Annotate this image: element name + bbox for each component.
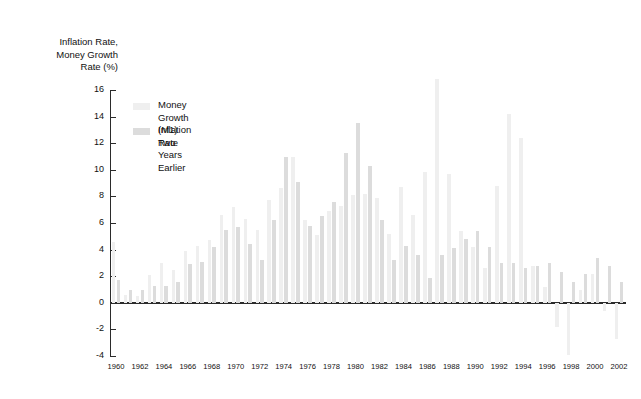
y-tick xyxy=(110,170,116,171)
bar-money-growth-1960 xyxy=(112,242,116,303)
y-tick-label: 10 xyxy=(78,164,104,174)
inflation-money-growth-chart: Inflation Rate, Money Growth Rate (%) 16… xyxy=(0,0,641,399)
y-tick xyxy=(110,143,116,144)
bar-money-growth-1980 xyxy=(351,195,355,303)
bar-inflation-1978 xyxy=(332,202,336,303)
bar-inflation-1976 xyxy=(308,226,312,303)
bar-inflation-1992 xyxy=(500,263,504,303)
y-tick-label: 2 xyxy=(78,270,104,280)
bar-inflation-1964 xyxy=(164,286,168,303)
bar-money-growth-1989 xyxy=(459,231,463,303)
y-tick-label: -2 xyxy=(78,323,104,333)
bar-money-growth-1965 xyxy=(172,270,176,303)
bar-inflation-1986 xyxy=(428,278,432,303)
y-tick xyxy=(110,356,116,357)
bar-money-growth-1973 xyxy=(267,200,271,302)
bar-inflation-2000 xyxy=(596,258,600,303)
y-tick-label: 14 xyxy=(78,111,104,121)
bar-inflation-1991 xyxy=(488,247,492,303)
bar-money-growth-1962 xyxy=(136,296,140,303)
y-tick-label: 12 xyxy=(78,137,104,147)
bar-inflation-1984 xyxy=(404,246,408,303)
bar-inflation-1960 xyxy=(117,280,121,303)
bar-inflation-1961 xyxy=(129,290,133,303)
bar-inflation-1969 xyxy=(224,230,228,303)
bar-inflation-1965 xyxy=(176,282,180,303)
bar-money-growth-1991 xyxy=(483,268,487,303)
bar-inflation-1971 xyxy=(248,244,252,303)
bar-money-growth-1963 xyxy=(148,275,152,303)
bar-inflation-1963 xyxy=(153,286,157,303)
y-tick-label: 6 xyxy=(78,217,104,227)
bar-money-growth-1983 xyxy=(387,234,391,303)
bar-money-growth-1976 xyxy=(303,220,307,302)
y-tick xyxy=(110,90,116,91)
bar-inflation-1973 xyxy=(272,220,276,302)
bar-inflation-1977 xyxy=(320,216,324,302)
bar-inflation-1979 xyxy=(344,153,348,303)
legend-swatch-inflation-icon xyxy=(133,128,150,135)
bar-money-growth-1988 xyxy=(447,174,451,303)
bar-money-growth-1993 xyxy=(507,114,511,303)
bar-money-growth-1997 xyxy=(555,303,559,327)
bar-inflation-1995 xyxy=(536,266,540,303)
bar-money-growth-1961 xyxy=(124,295,128,303)
y-axis-title: Inflation Rate, Money Growth Rate (%) xyxy=(18,36,118,74)
bar-money-growth-1967 xyxy=(196,246,200,303)
bar-inflation-1980 xyxy=(356,123,360,303)
bar-money-growth-1994 xyxy=(519,138,523,303)
bar-inflation-1974 xyxy=(284,157,288,303)
bar-inflation-1997 xyxy=(560,272,564,303)
bar-inflation-1994 xyxy=(524,268,528,303)
y-tick-label: 16 xyxy=(78,84,104,94)
bar-inflation-1990 xyxy=(476,231,480,303)
bar-money-growth-1974 xyxy=(279,188,283,302)
bar-inflation-1987 xyxy=(440,255,444,303)
bar-inflation-2002 xyxy=(620,282,624,303)
bar-money-growth-2000 xyxy=(591,274,595,303)
bar-inflation-1981 xyxy=(368,166,372,303)
bar-money-growth-1966 xyxy=(184,251,188,303)
y-tick-label: -4 xyxy=(78,350,104,360)
bar-inflation-1983 xyxy=(392,260,396,303)
y-tick xyxy=(110,303,116,304)
bar-money-growth-1978 xyxy=(327,211,331,303)
bar-money-growth-2001 xyxy=(603,303,607,311)
bar-inflation-1968 xyxy=(212,247,216,303)
bar-money-growth-1985 xyxy=(411,215,415,303)
bar-inflation-1996 xyxy=(548,263,552,303)
bar-inflation-1966 xyxy=(188,264,192,303)
y-tick xyxy=(110,196,116,197)
bar-money-growth-1990 xyxy=(471,247,475,303)
y-tick xyxy=(110,329,116,330)
bar-inflation-1982 xyxy=(380,220,384,302)
bar-money-growth-1998 xyxy=(567,303,571,355)
bar-money-growth-1996 xyxy=(543,287,547,303)
y-tick-label: 8 xyxy=(78,190,104,200)
bar-inflation-1970 xyxy=(236,227,240,303)
bar-inflation-1985 xyxy=(416,255,420,303)
y-tick-label: 0 xyxy=(78,297,104,307)
bar-money-growth-1968 xyxy=(208,240,212,303)
bar-inflation-1962 xyxy=(141,290,145,303)
bar-money-growth-1969 xyxy=(220,215,224,303)
bar-inflation-1967 xyxy=(200,262,204,303)
bar-money-growth-1982 xyxy=(375,198,379,303)
y-tick-label: 4 xyxy=(78,244,104,254)
bar-money-growth-1970 xyxy=(232,207,236,303)
bar-inflation-1999 xyxy=(584,274,588,303)
bar-money-growth-1972 xyxy=(256,230,260,303)
bar-inflation-1972 xyxy=(260,260,264,303)
bar-money-growth-1977 xyxy=(315,235,319,303)
y-tick xyxy=(110,223,116,224)
legend-label-inflation: Inflation Rate xyxy=(158,124,191,149)
bar-inflation-1998 xyxy=(572,282,576,303)
y-tick xyxy=(110,117,116,118)
bar-inflation-1975 xyxy=(296,182,300,303)
bar-money-growth-1979 xyxy=(339,206,343,303)
bar-money-growth-1986 xyxy=(423,172,427,302)
bar-money-growth-1971 xyxy=(244,219,248,303)
bar-money-growth-1995 xyxy=(531,266,535,303)
legend-swatch-money-growth-icon xyxy=(133,103,150,110)
bar-money-growth-1981 xyxy=(363,194,367,303)
